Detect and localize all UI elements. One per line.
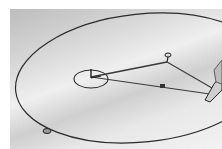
hand (214, 60, 222, 84)
string-pin-to-pencil (167, 62, 212, 88)
ellipse-mark (43, 129, 51, 134)
string-knot (160, 84, 165, 88)
photo-frame: Grayscale photo of paper with a large el… (0, 0, 222, 149)
pin-top-head (165, 53, 171, 57)
string-focus-to-pencil (91, 77, 210, 94)
pin-top (167, 57, 168, 62)
ellipse-drawing (0, 0, 222, 149)
string-to-pin (91, 62, 167, 77)
